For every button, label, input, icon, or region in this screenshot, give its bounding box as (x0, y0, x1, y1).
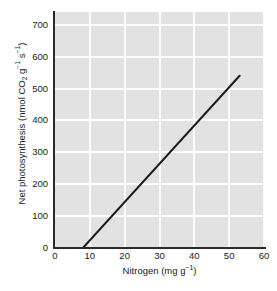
gridline-vertical (124, 12, 126, 248)
y-axis-title-sub-2: 2 (21, 77, 28, 81)
x-tick-label: 10 (77, 251, 103, 261)
gridline-vertical (159, 12, 161, 248)
x-axis-line (53, 247, 266, 249)
x-axis-title-close: ) (193, 265, 196, 276)
regression-line (83, 76, 240, 248)
x-tick-label: 30 (147, 251, 173, 261)
gridline-vertical (193, 12, 195, 248)
plot-area (55, 12, 264, 248)
y-axis-line (53, 11, 55, 249)
y-axis-title-exp-2: −1 (14, 46, 21, 54)
x-tick-label: 20 (112, 251, 138, 261)
x-tick-label: 0 (42, 251, 68, 261)
x-axis-title-name: Nitrogen (mg g (123, 265, 186, 276)
chart-figure: 0100200300400500600700 0102030405060 Net… (0, 0, 277, 291)
y-axis-title-lead: Net photosynthesis (nmol CO (16, 80, 27, 204)
gridline-vertical (228, 12, 230, 248)
gridline-vertical (263, 12, 264, 248)
x-tick-label: 60 (251, 251, 277, 261)
y-axis-title-mid2: s (16, 53, 27, 60)
x-tick-label: 50 (216, 251, 242, 261)
y-axis-title-mid: g (16, 69, 27, 77)
gridline-vertical (89, 12, 91, 248)
x-tick-label: 40 (181, 251, 207, 261)
y-axis-title: Net photosynthesis (nmol CO2 g−1 s−1) (16, 19, 27, 229)
x-axis-title: Nitrogen (mg g−1) (55, 265, 264, 276)
y-axis-title-exp-1: −1 (14, 61, 21, 69)
y-axis-title-close: ) (16, 43, 27, 46)
